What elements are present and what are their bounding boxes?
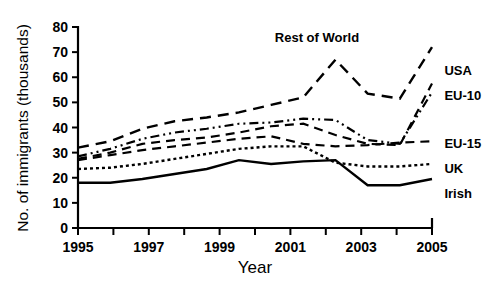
y-tick-label: 40 — [52, 120, 68, 136]
y-tick-label: 60 — [52, 69, 68, 85]
x-axis-title-text: Year — [238, 258, 273, 277]
series-label-eu-15: EU-15 — [444, 136, 481, 151]
x-tick-label: 2001 — [275, 239, 306, 255]
series-label-irish: Irish — [444, 186, 472, 201]
y-tick-label: 30 — [52, 145, 68, 161]
x-axis-ticks: 199519971999200120032005 — [62, 228, 447, 255]
series-line-eu-15 — [78, 136, 432, 160]
series-line-rest-of-world — [78, 47, 432, 148]
y-tick-label: 10 — [52, 195, 68, 211]
y-tick-label: 20 — [52, 170, 68, 186]
x-tick-label: 1999 — [204, 239, 235, 255]
x-axis-title: Year — [238, 258, 273, 277]
y-tick-label: 50 — [52, 94, 68, 110]
y-tick-label: 80 — [52, 19, 68, 35]
series-line-uk — [78, 146, 432, 169]
series-label-uk: UK — [444, 161, 463, 176]
series-label-rest-of-world: Rest of World — [275, 30, 359, 45]
data-series-lines — [78, 47, 432, 185]
series-line-usa — [78, 84, 432, 159]
series-label-eu-10: EU-10 — [444, 88, 481, 103]
axis-lines — [78, 26, 432, 228]
immigration-line-chart: No. of immigrants (thousands) Year 01020… — [0, 0, 490, 286]
x-tick-label: 1997 — [133, 239, 164, 255]
series-label-usa: USA — [444, 63, 472, 78]
x-tick-label: 1995 — [62, 239, 93, 255]
series-line-irish — [78, 160, 432, 185]
x-tick-label: 2005 — [416, 239, 447, 255]
y-tick-label: 70 — [52, 44, 68, 60]
y-axis-title-text: No. of immigrants (thousands) — [14, 24, 31, 232]
series-labels: Rest of WorldUSAEU-10EU-15UKIrish — [275, 30, 481, 201]
series-line-eu-10 — [78, 92, 432, 156]
y-tick-label: 0 — [60, 220, 68, 236]
x-tick-label: 2003 — [346, 239, 377, 255]
chart-axes — [78, 26, 432, 228]
y-axis-title: No. of immigrants (thousands) — [14, 24, 31, 232]
y-axis-ticks: 01020304050607080 — [52, 19, 78, 236]
